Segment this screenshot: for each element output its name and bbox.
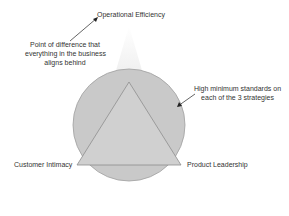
- label-product-leadership: Product Leadership: [187, 160, 248, 169]
- annotation-line: aligns behind: [25, 58, 105, 67]
- annotation-line: each of the 3 strategies: [190, 93, 285, 102]
- annotation-high-standards: High minimum standards on each of the 3 …: [190, 84, 285, 102]
- arrow-left: [70, 18, 97, 41]
- annotation-point-of-difference: Point of difference that everything in t…: [25, 40, 105, 67]
- label-operational-efficiency: Operational Efficiency: [97, 10, 165, 19]
- annotation-line: High minimum standards on: [190, 84, 285, 93]
- annotation-line: Point of difference that: [25, 40, 105, 49]
- annotation-line: everything in the business: [25, 49, 105, 58]
- label-customer-intimacy: Customer Intimacy: [14, 160, 72, 169]
- value-disciplines-diagram: [0, 0, 289, 216]
